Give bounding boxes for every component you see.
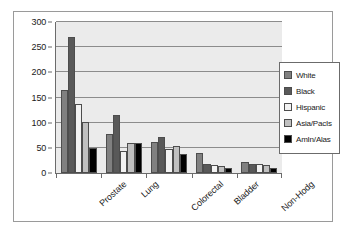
bar — [225, 168, 232, 173]
legend-label: AmIn/Alas — [296, 135, 331, 144]
y-axis-tick-label: 0 — [41, 168, 46, 178]
bar — [61, 90, 68, 173]
bar — [106, 134, 113, 173]
bar — [127, 143, 134, 173]
bar — [165, 149, 172, 173]
legend-swatch-icon — [284, 135, 292, 143]
x-axis-category-label: Lung — [139, 179, 160, 200]
y-axis: 050100150200250300 — [14, 22, 52, 174]
bar — [82, 122, 89, 173]
legend-item: Asia/PacIs — [284, 115, 336, 131]
bar — [75, 104, 82, 173]
legend-label: White — [296, 71, 315, 80]
bar — [249, 164, 256, 173]
y-axis-tick-label: 50 — [36, 143, 46, 153]
chart-frame: 050100150200250300 ProstateLungColorecta… — [13, 11, 333, 222]
legend-item: Hispanic — [284, 99, 336, 115]
y-axis-tick-mark — [48, 72, 52, 73]
legend-item: Black — [284, 83, 336, 99]
y-axis-tick-mark — [48, 97, 52, 98]
bars-layer — [56, 22, 282, 173]
y-axis-tick-mark — [48, 47, 52, 48]
x-axis-labels: ProstateLungColorectalBladderNon-Hodg — [56, 176, 296, 222]
y-axis-tick-mark — [48, 122, 52, 123]
bar — [256, 164, 263, 173]
bar-group — [237, 22, 282, 173]
legend-swatch-icon — [284, 119, 292, 127]
bar — [180, 154, 187, 173]
bar — [135, 143, 142, 173]
y-axis-tick-mark — [48, 22, 52, 23]
legend-label: Hispanic — [296, 103, 325, 112]
y-axis-tick-label: 300 — [32, 17, 46, 27]
y-axis-tick-label: 200 — [32, 67, 46, 77]
legend-item: AmIn/Alas — [284, 131, 336, 147]
y-axis-tick-mark — [48, 147, 52, 148]
bar — [211, 165, 218, 173]
legend-label: Asia/PacIs — [296, 119, 332, 128]
x-axis-category-label: Colorectal — [189, 179, 225, 213]
bar — [263, 165, 270, 173]
bar — [270, 168, 277, 173]
bar-group — [146, 22, 191, 173]
x-axis-category-label: Prostate — [97, 179, 128, 208]
legend-label: Black — [296, 87, 315, 96]
bar — [196, 153, 203, 173]
legend-item: White — [284, 67, 336, 83]
y-axis-tick-label: 150 — [32, 93, 46, 103]
bar — [113, 115, 120, 173]
bar — [241, 162, 248, 173]
bar — [151, 142, 158, 173]
legend-swatch-icon — [284, 103, 292, 111]
y-axis-tick-mark — [48, 173, 52, 174]
chart-legend: WhiteBlackHispanicAsia/PacIsAmIn/Alas — [279, 62, 340, 154]
x-axis-category-label: Non-Hodg — [280, 179, 317, 213]
bar — [120, 151, 127, 173]
bar — [68, 37, 75, 173]
bar — [89, 148, 96, 173]
bar — [158, 137, 165, 173]
legend-swatch-icon — [284, 71, 292, 79]
y-axis-tick-label: 100 — [32, 118, 46, 128]
bar-group — [192, 22, 237, 173]
bar-group — [101, 22, 146, 173]
y-axis-tick-label: 250 — [32, 42, 46, 52]
legend-swatch-icon — [284, 87, 292, 95]
bar — [173, 146, 180, 173]
bar-group — [56, 22, 101, 173]
bar — [203, 164, 210, 173]
x-axis-category-label: Bladder — [232, 179, 261, 207]
bar — [218, 166, 225, 173]
